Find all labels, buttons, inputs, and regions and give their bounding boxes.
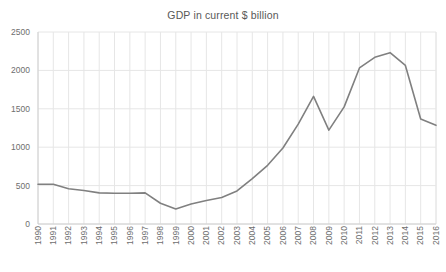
x-tick-slot: 2007 (292, 226, 304, 270)
x-tick-slot: 1992 (63, 226, 75, 270)
plot-area (38, 32, 436, 224)
x-tick-label: 2001 (202, 226, 211, 245)
y-tick-label: 1500 (11, 104, 30, 114)
x-tick-label: 2009 (325, 226, 334, 245)
gdp-line-chart: GDP in current $ billion 050010001500200… (0, 0, 446, 272)
x-tick-slot: 1990 (32, 226, 44, 270)
x-tick-label: 2015 (416, 226, 425, 245)
x-tick-slot: 2003 (231, 226, 243, 270)
x-tick-slot: 2015 (415, 226, 427, 270)
series-line-gdp (38, 53, 436, 209)
x-tick-label: 2005 (263, 226, 272, 245)
data-series-line (38, 32, 436, 224)
y-tick-label: 2500 (11, 27, 30, 37)
x-tick-label: 2007 (294, 226, 303, 245)
x-tick-slot: 2002 (216, 226, 228, 270)
x-tick-slot: 1997 (139, 226, 151, 270)
x-tick-label: 2006 (279, 226, 288, 245)
x-tick-label: 1994 (95, 226, 104, 245)
x-tick-slot: 1995 (109, 226, 121, 270)
x-tick-slot: 2013 (384, 226, 396, 270)
x-tick-label: 2011 (355, 226, 364, 244)
x-tick-slot: 2016 (430, 226, 442, 270)
x-tick-slot: 1999 (170, 226, 182, 270)
chart-title: GDP in current $ billion (0, 9, 446, 21)
y-tick-label: 2000 (11, 65, 30, 75)
x-tick-label: 1999 (172, 226, 181, 245)
x-tick-label: 2010 (340, 226, 349, 245)
x-tick-label: 1991 (49, 226, 58, 245)
x-tick-slot: 1993 (78, 226, 90, 270)
x-tick-label: 1992 (64, 226, 73, 245)
x-tick-slot: 2014 (399, 226, 411, 270)
x-tick-slot: 2010 (338, 226, 350, 270)
x-tick-slot: 2011 (353, 226, 365, 270)
x-tick-label: 1998 (156, 226, 165, 245)
x-tick-slot: 2000 (185, 226, 197, 270)
x-tick-slot: 2004 (246, 226, 258, 270)
y-tick-label: 0 (25, 219, 30, 229)
x-tick-label: 1997 (141, 226, 150, 245)
x-tick-label: 1996 (126, 226, 135, 245)
x-tick-label: 2004 (248, 226, 257, 245)
y-tick-label: 500 (16, 181, 30, 191)
x-tick-slot: 1996 (124, 226, 136, 270)
x-tick-label: 2012 (371, 226, 380, 245)
x-tick-slot: 1991 (47, 226, 59, 270)
x-tick-label: 2013 (386, 226, 395, 245)
x-tick-slot: 2001 (200, 226, 212, 270)
x-tick-label: 2014 (401, 226, 410, 245)
x-tick-label: 2003 (233, 226, 242, 245)
x-tick-label: 1995 (110, 226, 119, 245)
x-tick-label: 1990 (34, 226, 43, 245)
y-tick-label: 1000 (11, 142, 30, 152)
x-tick-slot: 1998 (154, 226, 166, 270)
y-axis: 05001000150020002500 (0, 32, 34, 224)
x-tick-label: 2016 (432, 226, 441, 245)
x-tick-slot: 2006 (277, 226, 289, 270)
x-tick-label: 2008 (309, 226, 318, 245)
x-tick-slot: 2012 (369, 226, 381, 270)
x-tick-slot: 2005 (262, 226, 274, 270)
x-tick-slot: 1994 (93, 226, 105, 270)
x-tick-label: 1993 (80, 226, 89, 245)
x-tick-label: 2000 (187, 226, 196, 245)
x-tick-slot: 2008 (308, 226, 320, 270)
x-axis: 1990199119921993199419951996199719981999… (38, 226, 436, 270)
x-tick-slot: 2009 (323, 226, 335, 270)
x-tick-label: 2002 (217, 226, 226, 245)
